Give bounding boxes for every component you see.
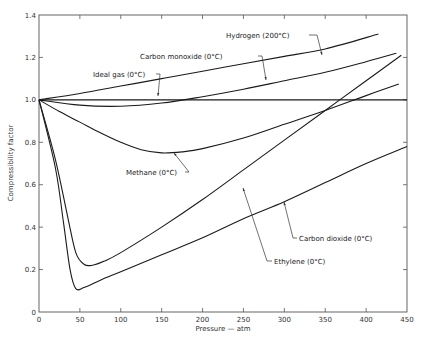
y-tick-label: 0 bbox=[32, 309, 36, 317]
label-carbon-monoxide: Carbon monoxide (0°C) bbox=[140, 53, 223, 61]
label-methane: Methane (0°C) bbox=[126, 169, 177, 177]
x-tick-label: 350 bbox=[319, 316, 332, 324]
x-tick-label: 50 bbox=[75, 316, 84, 324]
y-tick-label: 1.2 bbox=[25, 54, 36, 62]
arrowhead-icon bbox=[243, 188, 245, 191]
y-tick-label: 0.6 bbox=[25, 181, 37, 189]
leader-arrow bbox=[243, 188, 272, 261]
arrowhead-icon bbox=[284, 202, 286, 205]
leader-arrow bbox=[156, 74, 160, 96]
x-tick-label: 400 bbox=[359, 316, 372, 324]
label-leaders bbox=[156, 35, 322, 261]
y-tick-label: 0.2 bbox=[25, 266, 36, 274]
x-tick-label: 0 bbox=[37, 316, 41, 324]
x-tick-label: 100 bbox=[114, 316, 127, 324]
label-carbon-dioxide: Carbon dioxide (0°C) bbox=[299, 235, 373, 243]
leader-arrow bbox=[284, 202, 297, 238]
y-tick-label: 0.4 bbox=[25, 224, 37, 232]
y-axis-title: Compressibility factor bbox=[7, 125, 15, 202]
label-ethylene: Ethylene (0°C) bbox=[274, 258, 326, 266]
x-tick-label: 150 bbox=[155, 316, 168, 324]
x-tick-label: 300 bbox=[278, 316, 291, 324]
x-axis-ticks: 050100150200250300350400450 bbox=[37, 15, 414, 324]
x-tick-label: 450 bbox=[400, 316, 413, 324]
curve-carbon-dioxide-c bbox=[39, 100, 407, 290]
x-axis-title: Pressure — atm bbox=[195, 325, 250, 333]
y-tick-label: 0.8 bbox=[25, 139, 36, 147]
plot-frame bbox=[39, 15, 407, 312]
x-tick-label: 250 bbox=[237, 316, 250, 324]
curve-hydrogen-c bbox=[39, 34, 378, 100]
axes-box bbox=[39, 15, 407, 312]
label-hydrogen: Hydrogen (200°C) bbox=[226, 32, 290, 40]
x-tick-label: 200 bbox=[196, 316, 209, 324]
y-tick-label: 1.0 bbox=[25, 96, 36, 104]
compressibility-chart: 050100150200250300350400450 00.20.40.60.… bbox=[0, 0, 425, 342]
arrowhead-icon bbox=[320, 52, 322, 55]
label-ideal-gas: Ideal gas (0°C) bbox=[93, 71, 145, 79]
y-tick-label: 1.4 bbox=[25, 12, 37, 20]
